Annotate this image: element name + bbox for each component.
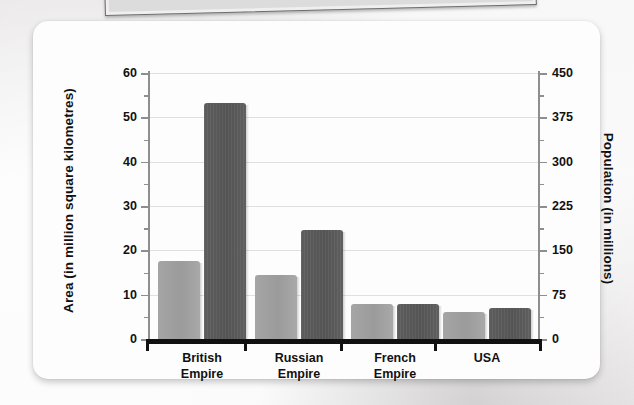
x-axis-tick-1 bbox=[244, 339, 247, 351]
bar-population[interactable] bbox=[489, 308, 531, 339]
bar-area[interactable] bbox=[443, 312, 485, 339]
bar-group bbox=[443, 73, 531, 339]
bar-group bbox=[351, 73, 439, 339]
bar-population[interactable] bbox=[301, 230, 343, 339]
bar-area[interactable] bbox=[255, 275, 297, 339]
x-axis-tick-3 bbox=[434, 339, 437, 351]
x-axis-category-label: USA bbox=[429, 351, 545, 367]
x-axis-baseline bbox=[146, 339, 542, 344]
bars-layer bbox=[33, 21, 600, 339]
bar-population[interactable] bbox=[397, 304, 439, 339]
chart-card: Area (in million square kilometres) Popu… bbox=[33, 21, 600, 379]
x-axis-tick-4 bbox=[539, 339, 542, 351]
bar-group bbox=[158, 73, 246, 339]
y-axis-right-title: Population (in millions) bbox=[601, 89, 616, 329]
bar-population[interactable] bbox=[204, 103, 246, 339]
x-axis-tick-2 bbox=[340, 339, 343, 351]
bar-area[interactable] bbox=[158, 261, 200, 339]
x-axis-tick-0 bbox=[146, 339, 149, 351]
bar-group bbox=[255, 73, 343, 339]
bar-area[interactable] bbox=[351, 304, 393, 339]
